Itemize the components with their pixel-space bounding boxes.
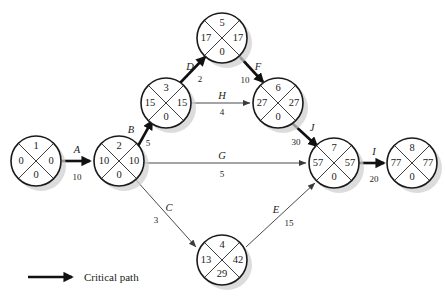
node-3-latest: 15 xyxy=(177,97,188,108)
node-8-number: 8 xyxy=(409,142,414,153)
node-7-earliest: 57 xyxy=(313,157,324,168)
network-diagram: A 10 B 5 C 3 D 2 E 15 F 10 G 5 H 4 I 20 … xyxy=(0,0,445,301)
edge-E xyxy=(246,183,315,247)
activity-label-I: I xyxy=(371,146,376,157)
activity-label-G: G xyxy=(218,150,226,161)
node-3-slack: 0 xyxy=(163,111,168,122)
activity-duration-F: 10 xyxy=(241,75,251,85)
activity-label-C: C xyxy=(165,202,173,213)
node-7: 7 57 57 0 xyxy=(309,138,364,193)
node-5-number: 5 xyxy=(219,17,224,28)
node-3-earliest: 15 xyxy=(145,97,156,108)
node-7-latest: 57 xyxy=(345,157,356,168)
activity-duration-B: 5 xyxy=(146,138,151,148)
node-1-earliest: 0 xyxy=(18,155,23,166)
activity-duration-E: 15 xyxy=(285,218,295,228)
node-6-earliest: 27 xyxy=(257,97,268,108)
node-2-slack: 0 xyxy=(116,169,121,180)
node-7-slack: 0 xyxy=(331,171,336,182)
edge-C xyxy=(136,180,196,247)
node-6-latest: 27 xyxy=(289,97,300,108)
node-8-slack: 0 xyxy=(409,171,414,182)
node-1-number: 1 xyxy=(33,140,38,151)
node-4-latest: 42 xyxy=(233,254,244,265)
network-diagram-canvas: A 10 B 5 C 3 D 2 E 15 F 10 G 5 H 4 I 20 … xyxy=(0,0,445,301)
node-6: 6 27 27 0 xyxy=(253,78,308,133)
node-1-slack: 0 xyxy=(33,169,38,180)
activity-duration-A: 10 xyxy=(73,172,83,182)
node-4: 4 13 42 29 xyxy=(197,235,252,290)
node-5-latest: 17 xyxy=(233,32,244,43)
activity-label-A: A xyxy=(73,144,81,155)
node-5: 5 17 17 0 xyxy=(197,13,252,68)
activity-label-H: H xyxy=(217,90,227,101)
node-4-slack: 29 xyxy=(217,268,228,279)
node-2-number: 2 xyxy=(116,140,121,151)
activity-duration-I: 20 xyxy=(370,174,380,184)
node-8-latest: 77 xyxy=(423,157,434,168)
activity-duration-D: 2 xyxy=(198,74,203,84)
node-1: 1 0 0 0 xyxy=(11,136,66,191)
activity-duration-H: 4 xyxy=(220,107,225,117)
node-6-slack: 0 xyxy=(275,111,280,122)
activity-label-J: J xyxy=(310,122,316,133)
legend-label: Critical path xyxy=(84,271,139,283)
activity-duration-J: 30 xyxy=(292,137,302,147)
node-4-earliest: 13 xyxy=(201,254,212,265)
activity-label-B: B xyxy=(128,124,135,135)
activity-label-E: E xyxy=(272,204,280,215)
node-7-number: 7 xyxy=(331,142,336,153)
node-2: 2 10 10 0 xyxy=(94,136,149,191)
activity-label-F: F xyxy=(254,61,262,72)
activity-duration-C: 3 xyxy=(154,215,159,225)
node-2-earliest: 10 xyxy=(99,155,110,166)
node-5-slack: 0 xyxy=(219,46,224,57)
activity-duration-G: 5 xyxy=(220,169,225,179)
node-6-number: 6 xyxy=(275,82,280,93)
node-8: 8 77 77 0 xyxy=(387,138,442,193)
node-5-earliest: 17 xyxy=(201,32,212,43)
node-2-latest: 10 xyxy=(129,155,140,166)
activity-label-D: D xyxy=(185,61,194,72)
legend: Critical path xyxy=(28,271,139,283)
node-4-number: 4 xyxy=(219,239,225,250)
node-1-latest: 0 xyxy=(48,155,53,166)
node-8-earliest: 77 xyxy=(391,157,402,168)
node-3-number: 3 xyxy=(163,82,168,93)
